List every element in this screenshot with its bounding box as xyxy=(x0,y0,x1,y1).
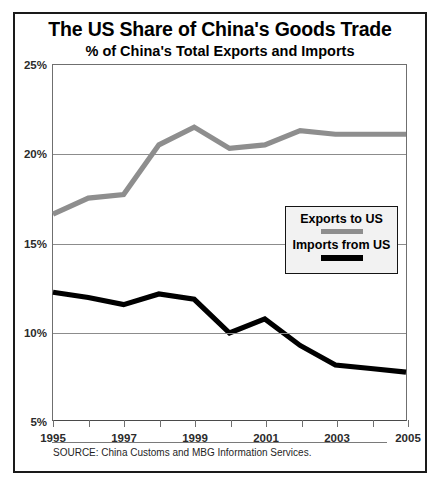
x-axis-tick xyxy=(89,420,90,427)
source-note: SOURCE: China Customs and MBG Informatio… xyxy=(53,447,311,458)
x-axis-tick xyxy=(124,420,125,427)
x-axis-tick xyxy=(373,420,374,427)
x-axis-tick xyxy=(160,420,161,427)
chart-subtitle: % of China's Total Exports and Imports xyxy=(15,42,425,60)
x-axis-tick xyxy=(195,420,196,427)
x-axis-tick xyxy=(53,420,54,427)
x-axis-tick-label: 2005 xyxy=(395,432,421,444)
legend-swatch-exports xyxy=(321,229,363,234)
legend-label-exports: Exports to US xyxy=(286,212,397,227)
page-title: The US Share of China's Goods Trade xyxy=(15,18,425,41)
x-axis-tick xyxy=(337,420,338,427)
y-axis-tick-label: 10% xyxy=(24,327,47,339)
chart-figure: The US Share of China's Goods Trade % of… xyxy=(13,12,427,473)
legend-entry-exports: Exports to US xyxy=(286,212,397,234)
legend-entry-imports: Imports from US xyxy=(286,238,397,261)
y-axis-tick-label: 5% xyxy=(30,416,47,428)
x-axis-tick xyxy=(302,420,303,427)
title-block: The US Share of China's Goods Trade % of… xyxy=(15,18,425,60)
source-divider xyxy=(52,442,387,443)
x-axis-tick xyxy=(408,420,409,427)
series-line-exports-to-us xyxy=(53,127,406,214)
chart-legend: Exports to US Imports from US xyxy=(285,206,398,274)
y-axis-tick-label: 20% xyxy=(24,148,47,160)
x-axis-tick xyxy=(231,420,232,427)
gridline-y xyxy=(53,333,406,334)
gridline-y xyxy=(53,154,406,155)
y-axis-tick-label: 15% xyxy=(24,238,47,250)
y-axis-tick-label: 25% xyxy=(24,59,47,71)
legend-label-imports: Imports from US xyxy=(286,238,397,253)
legend-swatch-imports xyxy=(321,255,363,261)
x-axis-tick xyxy=(266,420,267,427)
